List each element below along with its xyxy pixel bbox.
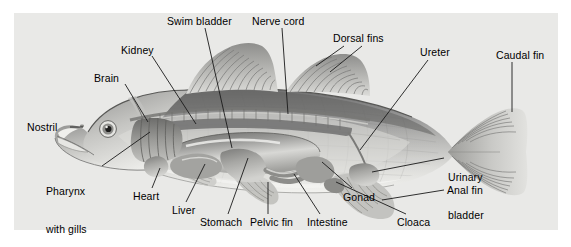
label-intestine: Intestine: [307, 216, 348, 229]
label-ureter: Ureter: [420, 46, 450, 59]
label-liver: Liver: [172, 204, 195, 217]
label-heart: Heart: [133, 190, 159, 203]
dorsal-fins-art: [186, 43, 370, 96]
label-dorsal-fins: Dorsal fins: [333, 32, 384, 45]
label-cloaca: Cloaca: [397, 216, 430, 229]
label-swim-bladder: Swim bladder: [167, 15, 232, 28]
heart-art: [144, 156, 169, 177]
label-pharynx-with-gills: Pharynx with gills: [46, 160, 87, 247]
label-pharynx-line-2: with gills: [46, 223, 87, 236]
label-urinary-bladder: Urinary bladder: [448, 146, 484, 246]
label-caudal-fin: Caudal fin: [496, 49, 544, 62]
fish-eye: [100, 121, 117, 138]
label-gonad: Gonad: [343, 191, 375, 204]
fish-anatomy-figure: Swim bladder Nerve cord Dorsal fins Uret…: [0, 0, 571, 247]
leader-anal-fin: [382, 190, 444, 200]
label-pelvic-fin: Pelvic fin: [250, 216, 293, 229]
label-pharynx-line-1: Pharynx: [46, 185, 87, 198]
label-nostril: Nostril: [27, 121, 57, 134]
label-stomach: Stomach: [200, 216, 242, 229]
label-urinary-line-2: bladder: [448, 209, 484, 222]
label-urinary-line-1: Urinary: [448, 171, 484, 184]
label-brain: Brain: [94, 72, 119, 85]
label-nerve-cord: Nerve cord: [252, 15, 304, 28]
label-kidney: Kidney: [121, 44, 154, 57]
